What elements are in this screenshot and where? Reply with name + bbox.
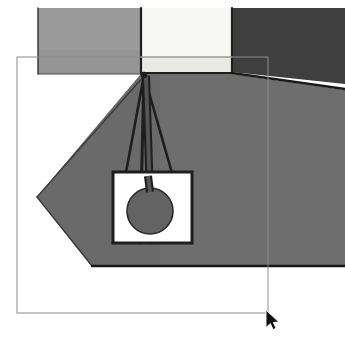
arrow-pointer-icon: [266, 310, 279, 330]
mouse-cursor: [266, 310, 279, 330]
screenshot-canvas: [0, 0, 345, 338]
selection-rectangle[interactable]: [17, 57, 268, 313]
ui-overlay: [0, 0, 345, 338]
